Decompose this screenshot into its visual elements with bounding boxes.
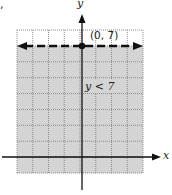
inequality-label: y < 7 (85, 80, 114, 93)
inequality-graph (0, 0, 172, 195)
x-axis-label: x (163, 149, 169, 162)
y-axis-arrow-icon (79, 14, 86, 23)
point-0-7 (79, 43, 85, 49)
y-axis-label: y (77, 0, 83, 10)
point-label: (0, 7) (90, 29, 118, 41)
x-axis-arrow-icon (152, 154, 161, 161)
